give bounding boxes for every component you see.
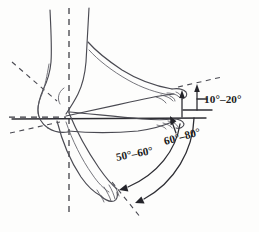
calf-posterior-line xyxy=(43,10,51,90)
dorsiflexed-foot xyxy=(66,42,187,116)
heel-curve xyxy=(48,128,68,132)
dorsum-upper-line xyxy=(88,42,172,89)
lower-left-oblique-axis xyxy=(10,122,60,133)
plantarflexed-foot xyxy=(57,113,119,202)
plantarflexion-outer-arrowhead xyxy=(135,196,145,203)
reference-axes xyxy=(9,8,222,218)
dorsum-secondary-line xyxy=(89,50,170,95)
toe-line-4-upper xyxy=(156,97,166,103)
plantarflexed-dorsum-line xyxy=(69,113,117,189)
dorsiflexion-arrow-group xyxy=(179,84,207,117)
dorsiflexion-arrow-outer-head xyxy=(194,84,200,92)
plantarflexed-toe-5 xyxy=(97,190,104,202)
achilles-inner-line xyxy=(38,64,49,114)
plantarflexion-inner-arrowhead xyxy=(119,184,128,191)
ankle-rom-figure: 10°–20° 60°–80° 50°–60° xyxy=(0,0,259,232)
achilles-contour xyxy=(38,90,48,128)
neutral-foot xyxy=(68,112,184,133)
upper-right-oblique-axis xyxy=(178,77,222,87)
dorsiflexion-angle-label: 10°–20° xyxy=(204,94,242,105)
ankle-rom-drawing xyxy=(0,0,259,232)
malleolus-arc xyxy=(58,88,64,104)
neutral-foot-sole xyxy=(68,122,172,133)
leg-outline xyxy=(38,8,89,132)
